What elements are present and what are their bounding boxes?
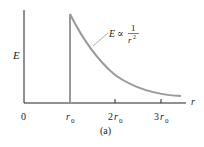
origin-label: 0 xyxy=(21,111,26,122)
formula-denominator-exp: 2 xyxy=(133,34,136,40)
tick-label-2r0: 2 r 0 xyxy=(108,111,123,125)
figure-caption: (a) xyxy=(100,125,111,137)
svg-text:r: r xyxy=(160,111,164,122)
svg-text:0: 0 xyxy=(165,117,169,125)
svg-text:3: 3 xyxy=(154,111,159,122)
svg-text:0: 0 xyxy=(71,117,75,125)
svg-text:r: r xyxy=(66,111,70,122)
formula-relation: ∝ xyxy=(117,28,124,39)
field-vs-distance-diagram: E ∝ 1 r 2 E r 0 r 0 2 r 0 3 r 0 (a) xyxy=(0,0,204,147)
formula-lhs: E xyxy=(108,28,115,39)
formula-leader-line xyxy=(93,33,108,46)
tick-label-r0: r 0 xyxy=(66,111,75,125)
inverse-square-curve xyxy=(70,14,181,96)
formula-denominator-base: r xyxy=(128,35,132,45)
tick-label-3r0: 3 r 0 xyxy=(154,111,169,125)
svg-text:r: r xyxy=(114,111,118,122)
formula-numerator: 1 xyxy=(131,23,136,33)
x-axis-label: r xyxy=(191,96,195,107)
svg-text:0: 0 xyxy=(119,117,123,125)
y-axis-label: E xyxy=(12,49,20,61)
svg-text:2: 2 xyxy=(108,111,113,122)
